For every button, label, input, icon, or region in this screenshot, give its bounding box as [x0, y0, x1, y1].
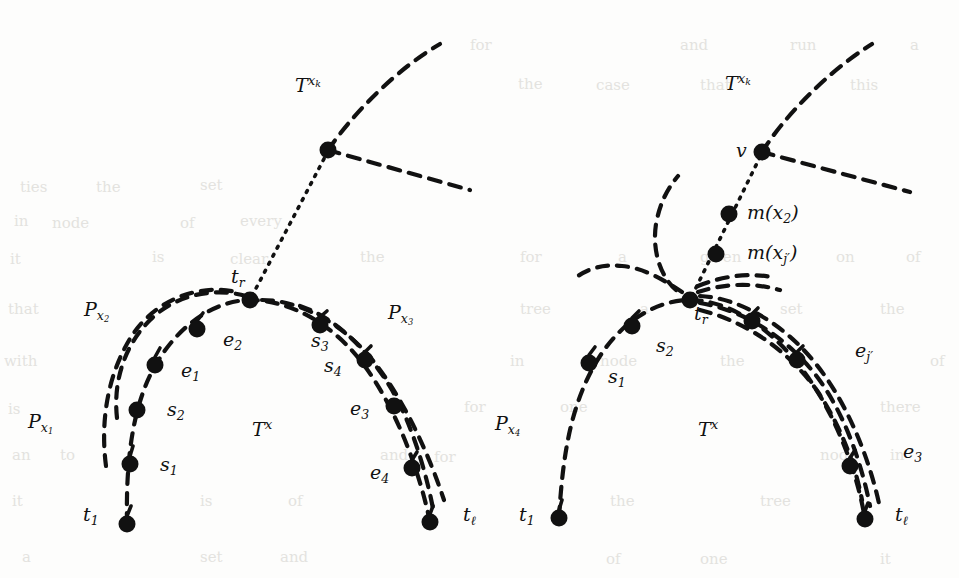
right-label-s2: s2	[656, 336, 674, 355]
right-dotted-connector	[692, 157, 760, 296]
left-branch-right	[328, 150, 470, 190]
node-s4	[357, 352, 374, 369]
left-label-e1: e1	[181, 361, 200, 380]
left-label-px3: Px3	[388, 303, 413, 322]
right-panel-nodes	[551, 144, 874, 528]
node-e2	[189, 321, 206, 338]
right-label-ej: ej′	[855, 341, 873, 360]
left-label-px2: Px2	[84, 300, 109, 319]
node-right-a	[744, 313, 761, 330]
node-t1	[119, 516, 136, 533]
node-t1	[551, 510, 568, 527]
right-label-s1: s1	[608, 367, 626, 386]
node-tl	[857, 511, 874, 528]
left-label-t1: t1	[83, 505, 99, 524]
left-label-px1: Px1	[28, 412, 53, 431]
node-v	[754, 144, 771, 161]
right-panel-strokes	[559, 44, 910, 519]
node-right-b	[789, 352, 806, 369]
node-e4	[404, 460, 421, 477]
right-branch-up	[762, 44, 872, 152]
right-branch-right	[762, 152, 910, 192]
branch-node	[320, 142, 337, 159]
tree-path-figure: tiesthesetforandrunainnodeofeverythecase…	[0, 0, 959, 578]
left-label-e4: e4	[370, 463, 389, 482]
left-dotted-connector	[252, 155, 326, 296]
right-label-t1: t1	[519, 505, 535, 524]
right-arc-backbone	[559, 300, 865, 519]
right-label-tx: Tx	[698, 420, 718, 439]
right-path-left-strand	[578, 265, 682, 292]
right-path-px4	[655, 176, 678, 290]
diagram-canvas	[0, 0, 959, 578]
node-e1	[147, 357, 164, 374]
right-label-mxj: m(xj′)	[747, 243, 797, 262]
right-label-mx2: m(x2)	[747, 203, 799, 222]
right-fan-hook-1	[698, 285, 780, 292]
node-e3	[386, 398, 403, 415]
right-label-e3: e3	[903, 442, 922, 461]
node-s1	[122, 456, 139, 473]
right-label-px4: Px4	[495, 414, 520, 433]
right-label-tr: tr	[694, 304, 708, 323]
left-label-e2: e2	[223, 330, 242, 349]
node-tl	[422, 514, 439, 531]
right-node-stubs	[559, 308, 868, 511]
left-top-tree-label: Txk	[295, 76, 321, 95]
node-right-c	[842, 458, 859, 475]
node-s1	[581, 355, 598, 372]
node-mx2	[721, 206, 738, 223]
right-label-v: v	[736, 141, 747, 160]
right-top-tree-label: Txk	[725, 74, 751, 93]
left-label-s3: s3	[311, 331, 329, 350]
left-label-s4: s4	[324, 356, 342, 375]
left-panel-strokes	[104, 44, 470, 524]
node-mxj	[708, 246, 725, 263]
left-path-px1	[104, 290, 236, 466]
left-label-e3: e3	[350, 399, 369, 418]
left-label-tr: tr	[231, 267, 245, 286]
left-label-tl: tℓ	[463, 505, 476, 524]
right-label-tl: tℓ	[895, 505, 908, 524]
left-label-s2: s2	[167, 400, 185, 419]
node-s2	[624, 318, 641, 335]
left-label-tx: Tx	[252, 420, 272, 439]
left-label-s1: s1	[160, 455, 178, 474]
right-bundle-1	[700, 296, 880, 508]
node-s2	[129, 402, 146, 419]
node-tr	[242, 292, 259, 309]
left-branch-up	[328, 44, 440, 150]
